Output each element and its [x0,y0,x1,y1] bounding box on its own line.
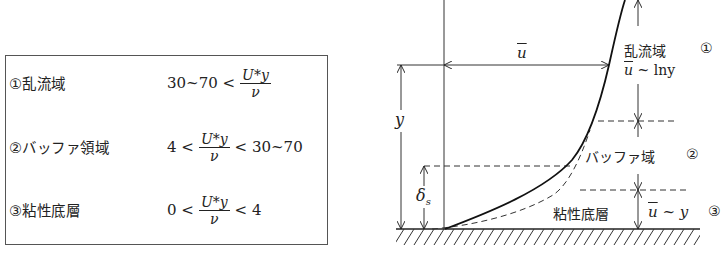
region-viscous-number: ③ [708,203,721,219]
region-turbulent-law: u ~ lny [624,62,675,78]
height-label: y [395,110,404,129]
region-viscous-law: u ~ y [648,203,688,221]
velocity-profile-diagram [0,0,721,261]
region-turbulent-number: ① [700,40,713,56]
region-buffer-name: バッファ域 [585,146,655,166]
region-turbulent-name: 乱流域 [624,40,666,60]
sublayer-thickness-label: δs [416,186,431,207]
region-buffer-number: ② [686,146,699,162]
velocity-profile-curve [445,0,625,229]
wall-ground [394,229,704,245]
region-viscous-name: 粘性底層 [553,203,609,223]
velocity-label: u [517,44,527,62]
